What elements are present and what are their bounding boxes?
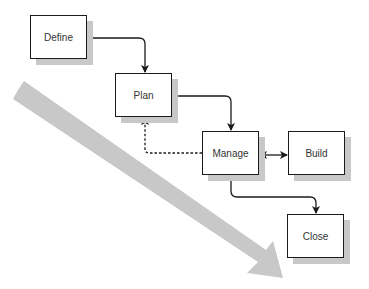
node-box: Build bbox=[288, 131, 345, 175]
node-label: Close bbox=[303, 231, 329, 242]
node-box: Manage bbox=[202, 131, 259, 175]
node-close[interactable]: Close bbox=[287, 214, 344, 258]
edge-plan-manage bbox=[172, 96, 231, 130]
node-plan[interactable]: Plan bbox=[115, 73, 172, 117]
node-build[interactable]: Build bbox=[288, 131, 345, 175]
node-label: Manage bbox=[212, 148, 248, 159]
node-box: Plan bbox=[115, 73, 172, 117]
node-label: Define bbox=[44, 32, 73, 43]
node-manage[interactable]: Manage bbox=[202, 131, 259, 175]
node-define[interactable]: Define bbox=[30, 15, 87, 59]
node-label: Plan bbox=[133, 90, 153, 101]
node-box: Define bbox=[30, 15, 87, 59]
node-box: Close bbox=[287, 214, 344, 258]
edge-define-plan bbox=[87, 38, 145, 72]
edge-manage-plan-dashed bbox=[145, 118, 202, 153]
node-label: Build bbox=[305, 148, 327, 159]
